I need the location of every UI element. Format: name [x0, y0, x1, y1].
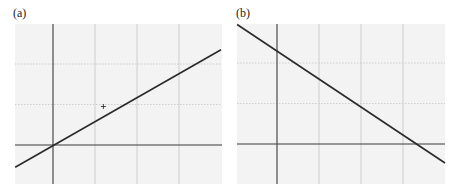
plot-area-a	[15, 24, 222, 184]
plot-area-b	[237, 24, 445, 184]
figure-canvas	[0, 0, 455, 192]
